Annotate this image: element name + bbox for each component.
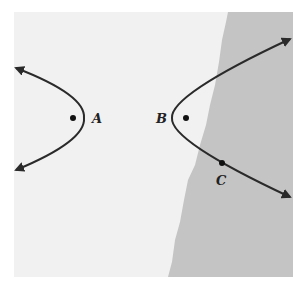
point-c <box>219 160 225 166</box>
point-b <box>183 115 189 121</box>
hyperbola-diagram: A B C <box>0 0 308 286</box>
point-a <box>70 115 76 121</box>
label-b: B <box>155 111 167 126</box>
label-a: A <box>90 111 102 126</box>
label-c: C <box>216 173 227 188</box>
